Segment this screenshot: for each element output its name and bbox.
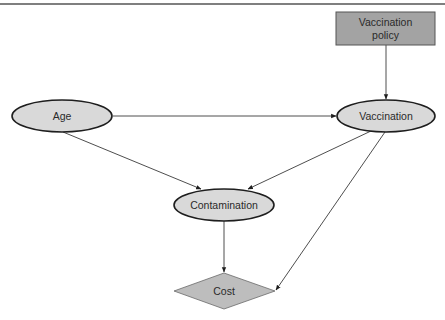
edge-age-to-contamination: [63, 132, 201, 189]
contamination-label: Contamination: [190, 199, 258, 211]
node-vaccination-policy[interactable]: Vaccination policy: [336, 12, 435, 45]
cost-label: Cost: [213, 285, 235, 297]
influence-diagram: Vaccination policy Age Vaccination Conta…: [0, 0, 445, 320]
vaccination-label: Vaccination: [359, 110, 413, 122]
node-contamination[interactable]: Contamination: [174, 189, 274, 221]
age-label: Age: [53, 110, 72, 122]
edge-vaccination-to-contamination: [248, 131, 371, 189]
vaccination-policy-label-line2: policy: [372, 29, 400, 41]
node-cost[interactable]: Cost: [174, 273, 275, 309]
edge-vaccination-to-cost: [276, 132, 385, 290]
node-age[interactable]: Age: [12, 100, 112, 132]
node-vaccination[interactable]: Vaccination: [337, 100, 435, 132]
vaccination-policy-label-line1: Vaccination: [359, 16, 413, 28]
